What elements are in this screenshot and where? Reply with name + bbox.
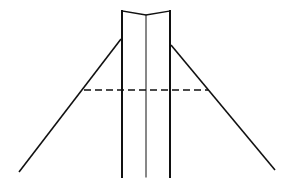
left-guy-wire <box>19 39 121 172</box>
post-top-edge <box>122 11 170 15</box>
right-guy-wire <box>171 45 275 170</box>
pole-with-guy-wires-diagram <box>0 0 295 189</box>
post <box>122 11 170 177</box>
